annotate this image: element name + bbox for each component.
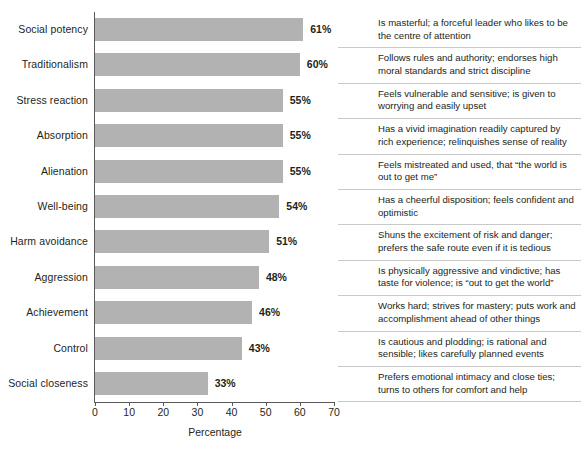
bar-value-label: 55% xyxy=(283,83,311,118)
description-cell: Works hard; strives for mastery; puts wo… xyxy=(378,295,578,330)
bar-value-label: 60% xyxy=(300,47,328,82)
chart-row: Stress reaction55%Feels vulnerable and s… xyxy=(0,83,584,118)
bar-chart: Social potency61%Is masterful; a forcefu… xyxy=(0,0,584,452)
category-label: Stress reaction xyxy=(0,83,88,118)
bar-track xyxy=(95,331,340,366)
bar-value-label: 51% xyxy=(269,224,297,259)
x-axis-title: Percentage xyxy=(135,426,295,438)
bar xyxy=(95,266,259,289)
category-label: Social potency xyxy=(0,12,88,47)
bar-value-label: 54% xyxy=(279,189,307,224)
bar-track xyxy=(95,224,340,259)
description-cell: Is masterful; a forceful leader who like… xyxy=(378,12,578,47)
chart-row: Alienation55%Feels mistreated and used, … xyxy=(0,154,584,189)
description-cell: Has a vivid imagination readily captured… xyxy=(378,118,578,153)
bar xyxy=(95,89,283,112)
description-cell: Follows rules and authority; endorses hi… xyxy=(378,47,578,82)
bar-value-label: 46% xyxy=(252,295,280,330)
bar-value-label: 43% xyxy=(242,331,270,366)
chart-row: Aggression48%Is physically aggressive an… xyxy=(0,260,584,295)
chart-row: Traditionalism60%Follows rules and autho… xyxy=(0,47,584,82)
chart-row: Achievement46%Works hard; strives for ma… xyxy=(0,295,584,330)
bar xyxy=(95,124,283,147)
bar xyxy=(95,372,208,395)
bar xyxy=(95,301,252,324)
bar xyxy=(95,18,303,41)
chart-row: Control43%Is cautious and plodding; is r… xyxy=(0,331,584,366)
bar-value-label: 55% xyxy=(283,118,311,153)
bar xyxy=(95,53,300,76)
bar-track xyxy=(95,260,340,295)
category-label: Absorption xyxy=(0,118,88,153)
category-label: Harm avoidance xyxy=(0,224,88,259)
description-cell: Feels vulnerable and sensitive; is given… xyxy=(378,83,578,118)
row-separator xyxy=(338,401,581,402)
bar-track xyxy=(95,295,340,330)
description-cell: Feels mistreated and used, that “the wor… xyxy=(378,154,578,189)
bar-value-label: 55% xyxy=(283,154,311,189)
category-label: Social closeness xyxy=(0,366,88,401)
description-cell: Has a cheerful disposition; feels confid… xyxy=(378,189,578,224)
category-label: Alienation xyxy=(0,154,88,189)
bar xyxy=(95,160,283,183)
chart-row: Harm avoidance51%Shuns the excitement of… xyxy=(0,224,584,259)
description-cell: Is physically aggressive and vindictive;… xyxy=(378,260,578,295)
bar-value-label: 61% xyxy=(303,12,331,47)
chart-row: Absorption55%Has a vivid imagination rea… xyxy=(0,118,584,153)
category-label: Traditionalism xyxy=(0,47,88,82)
bar xyxy=(95,230,269,253)
x-tick-label: 70 xyxy=(314,406,354,418)
bar-value-label: 48% xyxy=(259,260,287,295)
category-label: Aggression xyxy=(0,260,88,295)
description-cell: Is cautious and plodding; is rational an… xyxy=(378,331,578,366)
description-cell: Prefers emotional intimacy and close tie… xyxy=(378,366,578,401)
chart-row: Social potency61%Is masterful; a forcefu… xyxy=(0,12,584,47)
chart-row: Social closeness33%Prefers emotional int… xyxy=(0,366,584,401)
category-label: Well-being xyxy=(0,189,88,224)
description-cell: Shuns the excitement of risk and danger;… xyxy=(378,224,578,259)
bar xyxy=(95,195,279,218)
category-label: Achievement xyxy=(0,295,88,330)
category-label: Control xyxy=(0,331,88,366)
bar xyxy=(95,337,242,360)
chart-row: Well-being54%Has a cheerful disposition;… xyxy=(0,189,584,224)
bar-value-label: 33% xyxy=(208,366,236,401)
